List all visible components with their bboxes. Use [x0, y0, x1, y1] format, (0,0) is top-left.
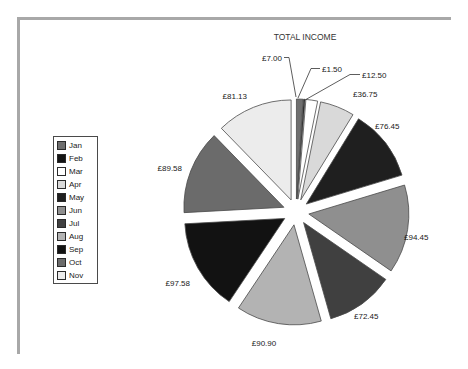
- legend-swatch-jan: [57, 141, 66, 150]
- legend-label-nov: Nov: [69, 269, 83, 282]
- data-label-feb: £1.50: [322, 65, 343, 74]
- leader-lines: [284, 58, 360, 101]
- legend-swatch-jun: [57, 206, 66, 215]
- legend-item-aug: Aug: [57, 230, 95, 243]
- legend-swatch-mar: [57, 167, 66, 176]
- data-label-oct: £89.58: [158, 164, 183, 173]
- legend-item-jun: Jun: [57, 204, 95, 217]
- data-label-mar: £12.50: [362, 71, 387, 80]
- data-label-nov: £81.13: [223, 92, 248, 101]
- leader-line-mar: [305, 75, 360, 101]
- chart-title: TOTAL INCOME: [274, 32, 337, 42]
- legend-item-oct: Oct: [57, 256, 95, 269]
- legend-label-jun: Jun: [69, 204, 82, 217]
- legend-label-oct: Oct: [69, 256, 81, 269]
- data-label-jul: £72.45: [354, 312, 379, 321]
- page: { "frame": { "color": "#a8a8a8" }, "char…: [0, 0, 468, 369]
- legend-item-nov: Nov: [57, 269, 95, 282]
- chart-legend: JanFebMarAprMayJunJulAugSepOctNov: [53, 136, 98, 284]
- legend-item-apr: Apr: [57, 178, 95, 191]
- legend-item-jan: Jan: [57, 139, 95, 152]
- legend-label-sep: Sep: [69, 243, 83, 256]
- data-label-may: £76.45: [375, 122, 400, 131]
- legend-swatch-aug: [57, 232, 66, 241]
- legend-item-sep: Sep: [57, 243, 95, 256]
- legend-swatch-jul: [57, 219, 66, 228]
- legend-swatch-may: [57, 193, 66, 202]
- data-label-sep: £97.58: [166, 279, 191, 288]
- legend-item-feb: Feb: [57, 152, 95, 165]
- legend-item-mar: Mar: [57, 165, 95, 178]
- data-label-apr: £36.75: [353, 90, 378, 99]
- legend-swatch-feb: [57, 154, 66, 163]
- legend-label-apr: Apr: [69, 178, 81, 191]
- legend-swatch-apr: [57, 180, 66, 189]
- legend-swatch-nov: [57, 271, 66, 280]
- pie-slices: [184, 99, 409, 325]
- legend-label-mar: Mar: [69, 165, 83, 178]
- legend-label-feb: Feb: [69, 152, 83, 165]
- data-label-aug: £90.90: [252, 339, 277, 348]
- legend-label-may: May: [69, 191, 84, 204]
- leader-line-jan: [284, 58, 296, 98]
- legend-label-jul: Jul: [69, 217, 79, 230]
- legend-swatch-sep: [57, 245, 66, 254]
- legend-swatch-oct: [57, 258, 66, 267]
- data-label-jun: £94.45: [404, 233, 429, 242]
- data-label-jan: £7.00: [262, 54, 283, 63]
- legend-item-jul: Jul: [57, 217, 95, 230]
- legend-label-aug: Aug: [69, 230, 83, 243]
- legend-item-may: May: [57, 191, 95, 204]
- legend-label-jan: Jan: [69, 139, 82, 152]
